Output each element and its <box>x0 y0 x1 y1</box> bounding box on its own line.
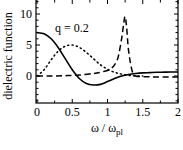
x-tick-label: 1 <box>105 105 111 119</box>
series-dotted-line <box>37 45 143 76</box>
x-tick-label: 0.5 <box>65 105 80 119</box>
x-tick-label: 2 <box>175 105 181 119</box>
x-axis-label-main: ω / ω <box>91 121 116 135</box>
x-axis-label: ω / ωpl <box>91 121 124 137</box>
x-tick-label: 1.5 <box>135 105 150 119</box>
dielectric-function-chart: 00.511.520510 q = 0.2 dielectric functio… <box>0 0 183 150</box>
y-tick-label: 0 <box>26 69 32 83</box>
x-tick-label: 0 <box>34 105 40 119</box>
x-axis-label-sub: pl <box>116 127 124 137</box>
y-axis-label: dielectric function <box>1 12 15 100</box>
y-tick-label: 10 <box>20 7 32 21</box>
y-tick-label: 5 <box>26 38 32 52</box>
q-annotation: q = 0.2 <box>55 21 89 35</box>
axis-ticks: 00.511.520510 <box>20 0 181 119</box>
